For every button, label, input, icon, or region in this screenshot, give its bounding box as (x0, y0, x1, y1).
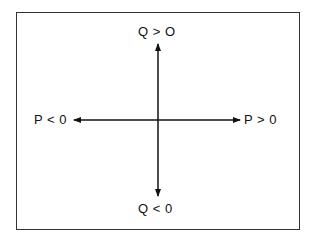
label-p-negative: P < 0 (34, 112, 67, 127)
label-q-positive: Q > O (138, 24, 176, 39)
label-q-negative: Q < 0 (138, 201, 173, 216)
label-p-positive: P > 0 (244, 112, 277, 127)
